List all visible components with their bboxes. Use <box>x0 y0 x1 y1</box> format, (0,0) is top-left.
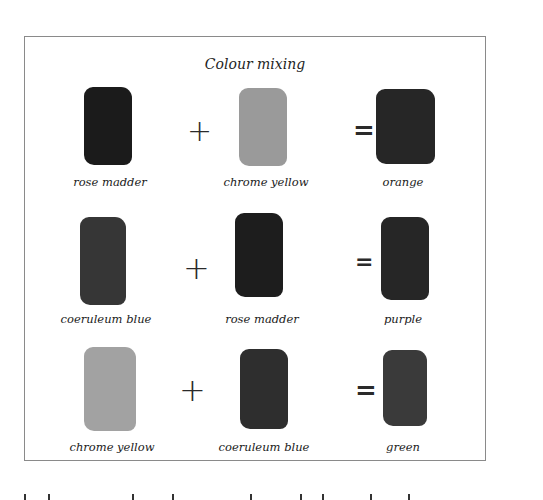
swatch-label: coeruleum blue <box>31 312 181 326</box>
swatch-label: rose madder <box>183 312 341 326</box>
paint-swatch <box>84 87 132 165</box>
paint-swatch <box>235 213 283 297</box>
swatch-label: rose madder <box>35 175 185 189</box>
truncated-text-line <box>22 494 422 500</box>
figure-title: Colour mixing <box>25 56 485 72</box>
paint-swatch <box>84 347 136 431</box>
paint-swatch <box>383 350 427 426</box>
equals-sign: = <box>355 375 377 405</box>
equals-sign: = <box>355 249 373 274</box>
swatch-label: green <box>331 440 475 454</box>
equals-sign: = <box>353 115 375 145</box>
paint-swatch <box>239 88 287 166</box>
paint-swatch <box>80 217 126 305</box>
plus-sign: + <box>183 249 210 287</box>
swatch-label: coeruleum blue <box>187 440 341 454</box>
paint-swatch <box>376 89 435 164</box>
swatch-label: orange <box>331 175 475 189</box>
plus-sign: + <box>179 371 206 409</box>
swatch-label: chrome yellow <box>37 440 187 454</box>
swatch-label: chrome yellow <box>191 175 341 189</box>
paint-swatch <box>240 349 288 429</box>
swatch-label: purple <box>331 312 475 326</box>
paint-swatch <box>381 217 429 300</box>
plus-sign: + <box>187 113 212 148</box>
figure-frame: Colour mixing rose madder + chrome yello… <box>24 36 486 461</box>
